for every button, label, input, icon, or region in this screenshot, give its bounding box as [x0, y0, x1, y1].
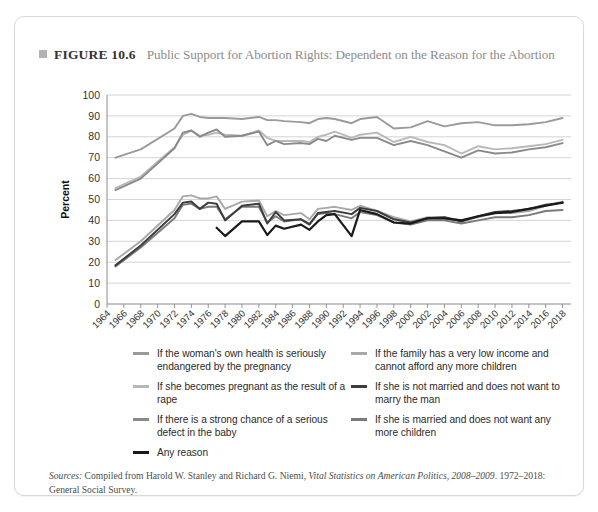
legend-line-swatch-icon: [351, 352, 367, 355]
legend-item-label: If she becomes pregnant as the result of…: [157, 380, 351, 406]
chart-series-line: [115, 129, 562, 190]
y-axis-tick-label: 60: [88, 172, 100, 184]
y-axis-tick-label: 50: [88, 193, 100, 205]
figure-card: FIGURE 10.6Public Support for Abortion R…: [14, 16, 584, 496]
legend-line-swatch-icon: [133, 418, 149, 421]
y-axis-tick-label: 80: [88, 130, 100, 142]
legend-line-swatch-icon: [133, 352, 149, 355]
legend-column-left: If the woman's own health is seriously e…: [133, 347, 351, 466]
source-body-1: Compiled from Harold W. Stanley and Rich…: [82, 470, 308, 481]
legend-item[interactable]: If she is not married and does not want …: [351, 380, 569, 406]
source-work-title: Vital Statistics on American Politics, 2…: [308, 470, 494, 481]
chart-series-line: [115, 202, 562, 266]
x-axis-tick-label: 2018: [545, 308, 568, 331]
source-note: Sources: Compiled from Harold W. Stanley…: [49, 469, 569, 497]
y-axis-tick-label: 70: [88, 151, 100, 163]
legend-line-swatch-icon: [351, 418, 367, 421]
figure-number: FIGURE 10.6: [54, 47, 136, 62]
legend-line-swatch-icon: [133, 385, 149, 388]
legend-line-swatch-icon: [351, 385, 367, 388]
legend-item[interactable]: If she becomes pregnant as the result of…: [133, 380, 351, 406]
legend-line-swatch-icon: [133, 451, 149, 454]
legend-item[interactable]: Any reason: [133, 446, 351, 459]
y-axis-tick-label: 20: [88, 256, 100, 268]
chart-series-line: [217, 203, 563, 236]
y-axis-title: Percent: [59, 180, 71, 219]
legend-item-label: If she is married and does not want any …: [375, 413, 569, 439]
legend-item[interactable]: If there is a strong chance of a serious…: [133, 413, 351, 439]
legend-item-label: If the woman's own health is seriously e…: [157, 347, 351, 373]
figure-page: FIGURE 10.6Public Support for Abortion R…: [0, 0, 598, 512]
legend-item-label: If the family has a very low income and …: [375, 347, 569, 373]
line-chart: 1009080706050403020100Percent19641966196…: [21, 67, 577, 367]
figure-header: FIGURE 10.6Public Support for Abortion R…: [39, 45, 569, 63]
legend-column-right: If the family has a very low income and …: [351, 347, 569, 446]
legend-item[interactable]: If she is married and does not want any …: [351, 413, 569, 439]
legend-item-label: If she is not married and does not want …: [375, 380, 569, 406]
legend-item-label: If there is a strong chance of a serious…: [157, 413, 351, 439]
y-axis-tick-label: 0: [94, 298, 100, 310]
legend-item-label: Any reason: [157, 446, 208, 459]
y-axis-tick-label: 40: [88, 214, 100, 226]
source-prefix: Sources:: [49, 470, 82, 481]
y-axis-tick-label: 10: [88, 277, 100, 289]
chart-series-line: [115, 131, 562, 188]
legend-item[interactable]: If the family has a very low income and …: [351, 347, 569, 373]
figure-title: Public Support for Abortion Rights: Depe…: [147, 47, 555, 62]
square-bullet-icon: [39, 50, 47, 58]
y-axis-tick-label: 100: [82, 89, 100, 101]
y-axis-tick-label: 30: [88, 235, 100, 247]
legend-item[interactable]: If the woman's own health is seriously e…: [133, 347, 351, 373]
y-axis-tick-label: 90: [88, 110, 100, 122]
